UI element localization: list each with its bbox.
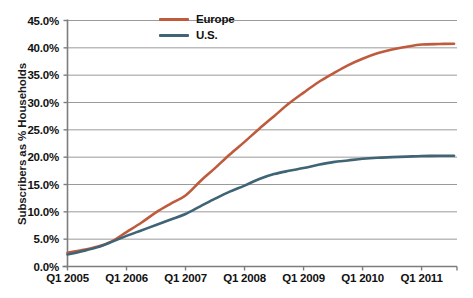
y-axis-tick-label: 25.0% [27,124,59,136]
y-axis-tick-label: 5.0% [34,233,59,245]
legend-label: Europe [196,13,234,25]
x-axis-tick-label: Q1 2009 [282,272,325,284]
x-axis-tick-label: Q1 2010 [341,272,384,284]
y-axis-tick-label: 20.0% [27,151,59,163]
x-axis-tick-label: Q1 2008 [223,272,266,284]
legend-label: U.S. [196,29,218,41]
chart-container: Subscribers as % Households 0.0%5.0%10.0… [0,0,473,298]
x-axis-tick-label: Q1 2006 [105,272,148,284]
x-axis-tick-label: Q1 2007 [164,272,207,284]
y-axis-tick-label: 10.0% [27,206,59,218]
legend-item[interactable]: U.S. [159,28,234,42]
y-axis-tick-labels: 0.0%5.0%10.0%15.0%20.0%25.0%30.0%35.0%40… [0,0,64,298]
x-axis-tick-labels: Q1 2005Q1 2006Q1 2007Q1 2008Q1 2009Q1 20… [0,272,473,298]
legend-color-swatch [159,18,189,21]
y-axis-tick-label: 40.0% [27,42,59,54]
x-axis-tick-label: Q1 2011 [401,272,443,284]
y-axis-tick-label: 0.0% [34,261,59,273]
legend-item[interactable]: Europe [159,12,234,26]
y-axis-tick-label: 30.0% [27,97,59,109]
y-axis-tick-label: 35.0% [27,69,59,81]
chart-legend: EuropeU.S. [157,10,238,46]
legend-color-swatch [159,34,189,37]
y-axis-tick-label: 45.0% [27,15,59,27]
y-axis-tick-label: 15.0% [27,179,59,191]
x-axis-tick-label: Q1 2005 [46,272,89,284]
